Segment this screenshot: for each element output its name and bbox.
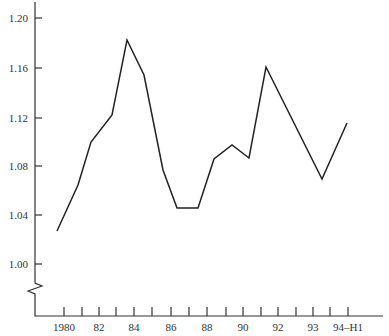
y-tick-label: 1.20: [9, 12, 29, 24]
y-tick-label: 1.04: [9, 209, 29, 221]
x-tick-label: 93: [308, 321, 320, 333]
y-tick-label: 1.16: [9, 62, 29, 74]
y-axis-ticks: 1.201.161.121.081.041.00: [9, 12, 42, 270]
line-chart: 1.201.161.121.081.041.00 198082848688909…: [0, 0, 389, 336]
x-axis-ticks: 19808284868890929394–H1: [53, 307, 363, 333]
axes: [28, 2, 383, 316]
data-line: [57, 40, 347, 231]
x-tick-label: 84: [129, 321, 141, 333]
y-tick-label: 1.08: [9, 160, 29, 172]
y-tick-label: 1.00: [9, 258, 29, 270]
y-tick-label: 1.12: [9, 112, 28, 124]
x-tick-label: 86: [166, 321, 178, 333]
x-tick-label: 94–H1: [333, 321, 363, 333]
x-tick-label: 1980: [53, 321, 76, 333]
x-tick-label: 92: [273, 321, 284, 333]
x-tick-label: 82: [94, 321, 105, 333]
x-tick-label: 90: [238, 321, 250, 333]
x-tick-label: 88: [202, 321, 214, 333]
axis-lines: [28, 2, 383, 316]
